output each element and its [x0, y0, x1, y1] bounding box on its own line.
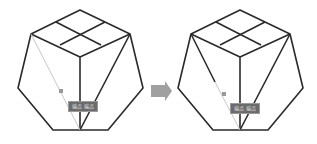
guide-line — [31, 34, 80, 130]
snap-marker — [59, 89, 63, 93]
snap-marker — [222, 92, 226, 96]
arrow-icon — [151, 81, 172, 101]
diagram-canvas — [0, 0, 317, 144]
snap-tooltip-left: 端点 端点 — [68, 101, 98, 112]
snap-tooltip-right: 端点 端点 — [230, 103, 260, 114]
left-figure — [18, 10, 143, 130]
